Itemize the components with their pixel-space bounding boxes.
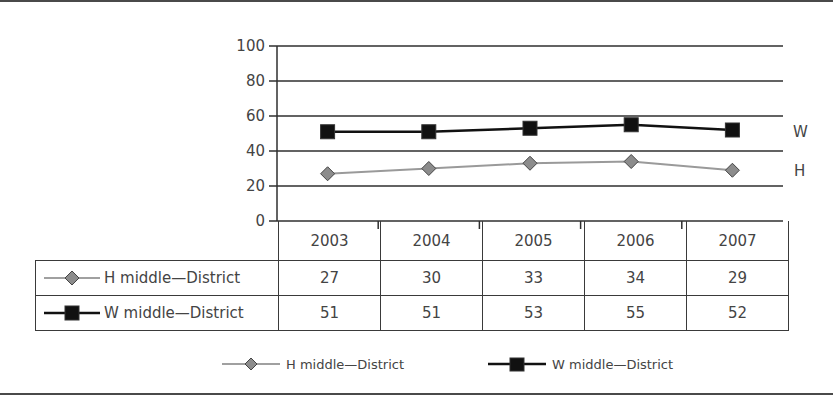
legend-label: W middle—District xyxy=(552,357,673,372)
square-marker-icon xyxy=(488,356,546,372)
square-marker-icon xyxy=(44,305,100,321)
table-cell: 27 xyxy=(279,261,381,296)
table-cell: 34 xyxy=(585,261,687,296)
table-header-row: 2003 2004 2005 2006 2007 xyxy=(36,221,789,261)
table-row: W middle—District 51 51 53 55 52 xyxy=(36,296,789,331)
table-year-header: 2006 xyxy=(585,221,687,261)
table-cell: 51 xyxy=(381,296,483,331)
series-label: W middle—District xyxy=(104,304,244,322)
diamond-marker-icon xyxy=(44,270,100,286)
table-year-header: 2004 xyxy=(381,221,483,261)
table-row-label-h: H middle—District xyxy=(36,261,279,296)
table-row: H middle—District 27 30 33 34 29 xyxy=(36,261,789,296)
table-cell: 55 xyxy=(585,296,687,331)
line-chart-plot xyxy=(0,0,833,406)
table-cell: 51 xyxy=(279,296,381,331)
legend-item-w: W middle—District xyxy=(488,356,673,372)
table-cell: 33 xyxy=(483,261,585,296)
data-table: 2003 2004 2005 2006 2007 H middle—Distri… xyxy=(35,221,789,331)
table-cell: 53 xyxy=(483,296,585,331)
series-end-label-w: W xyxy=(793,123,808,141)
table-year-header: 2005 xyxy=(483,221,585,261)
table-year-header: 2003 xyxy=(279,221,381,261)
table-cell: 52 xyxy=(687,296,789,331)
table-row-label-w: W middle—District xyxy=(36,296,279,331)
table-cell: 30 xyxy=(381,261,483,296)
frame-bottom-border xyxy=(0,393,833,395)
diamond-marker-icon xyxy=(222,356,280,372)
series-label: H middle—District xyxy=(104,269,240,287)
table-corner-blank xyxy=(36,221,279,261)
table-cell: 29 xyxy=(687,261,789,296)
table-year-header: 2007 xyxy=(687,221,789,261)
gridlines xyxy=(269,46,783,229)
series-end-label-h: H xyxy=(794,162,805,180)
chart-legend: H middle—District W middle—District xyxy=(0,356,833,376)
legend-item-h: H middle—District xyxy=(222,356,404,372)
legend-label: H middle—District xyxy=(286,357,404,372)
